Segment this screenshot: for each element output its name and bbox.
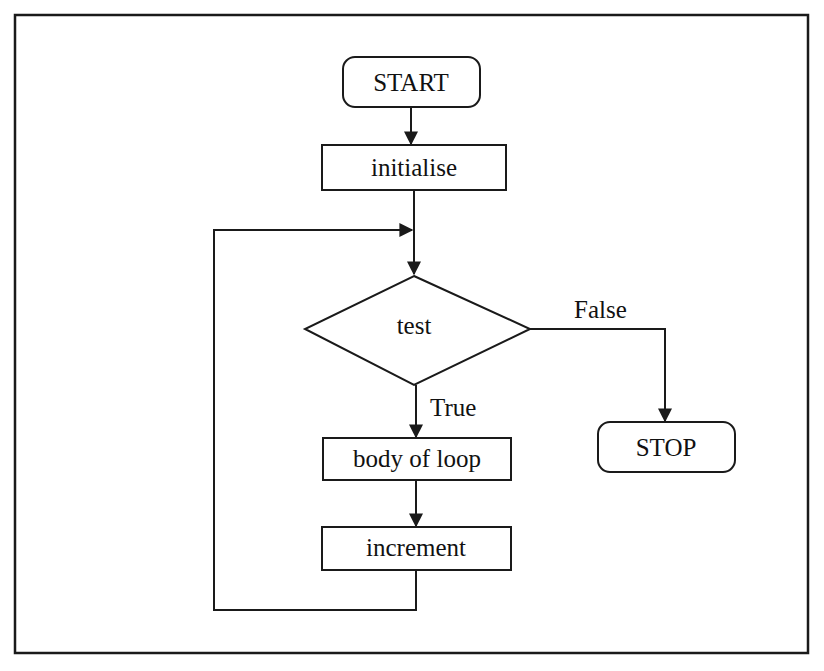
increment-node: increment bbox=[322, 527, 511, 570]
start-label: START bbox=[373, 69, 449, 96]
initialise-node: initialise bbox=[322, 145, 506, 190]
start-node: START bbox=[343, 57, 480, 107]
flowchart-canvas: START initialise test False STOP True bo… bbox=[0, 0, 824, 671]
false-label: False bbox=[574, 296, 627, 323]
body-of-loop-node: body of loop bbox=[323, 438, 511, 480]
stop-label: STOP bbox=[636, 434, 697, 461]
initialise-label: initialise bbox=[371, 154, 457, 181]
true-label: True bbox=[430, 394, 476, 421]
increment-label: increment bbox=[366, 534, 466, 561]
stop-node: STOP bbox=[598, 422, 735, 472]
body-of-loop-label: body of loop bbox=[353, 445, 481, 472]
test-label: test bbox=[397, 312, 432, 339]
